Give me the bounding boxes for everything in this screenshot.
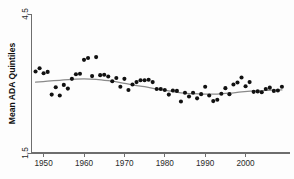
data-point <box>207 94 211 98</box>
data-point <box>260 90 264 94</box>
data-point <box>239 75 243 79</box>
data-point <box>74 72 78 76</box>
data-point <box>276 88 280 92</box>
data-point <box>50 93 54 97</box>
data-point <box>252 90 256 94</box>
data-point <box>151 80 155 84</box>
data-point <box>264 87 268 91</box>
data-point <box>159 87 163 91</box>
data-point <box>78 72 82 76</box>
data-point <box>139 78 143 82</box>
data-point <box>187 94 191 98</box>
data-point <box>126 88 130 92</box>
data-point <box>82 58 86 62</box>
data-point <box>147 78 151 82</box>
data-point <box>114 76 118 80</box>
data-point <box>90 74 94 78</box>
data-point <box>211 99 215 103</box>
data-point <box>231 82 235 86</box>
data-point <box>203 85 207 89</box>
data-point <box>215 98 219 102</box>
data-point <box>102 73 106 77</box>
y-axis-title: Mean ADA Quintiles <box>7 43 17 125</box>
data-point <box>167 93 171 97</box>
data-point <box>171 88 175 92</box>
data-point <box>110 79 114 83</box>
x-tick-label: 1980 <box>156 159 175 168</box>
x-tick-label: 1960 <box>75 159 94 168</box>
x-tick-label: 1970 <box>115 159 134 168</box>
data-point <box>106 75 110 79</box>
data-point <box>272 89 276 93</box>
data-point <box>179 100 183 104</box>
data-point <box>122 77 126 81</box>
data-point <box>175 89 179 93</box>
data-point <box>42 71 46 75</box>
data-point <box>235 81 239 85</box>
scatter-plot: 1.54.5Mean ADA Quintiles1950196019701980… <box>0 0 294 179</box>
data-point <box>58 94 62 98</box>
data-point <box>183 91 187 95</box>
data-point <box>199 92 203 96</box>
x-tick-label: 1950 <box>35 159 54 168</box>
data-point <box>54 85 58 89</box>
data-point <box>191 91 195 95</box>
data-point <box>62 83 66 87</box>
data-point <box>66 87 70 91</box>
data-point <box>227 92 231 96</box>
data-point <box>155 87 159 91</box>
data-point <box>70 77 74 81</box>
data-point <box>248 80 252 84</box>
data-point <box>268 86 272 90</box>
data-point <box>223 86 227 90</box>
data-point <box>219 92 223 96</box>
data-point <box>130 82 134 86</box>
data-point <box>98 73 102 77</box>
data-point <box>280 85 284 89</box>
data-point <box>256 89 260 93</box>
data-point <box>143 78 147 82</box>
x-tick-label: 2000 <box>236 159 255 168</box>
data-point <box>46 70 50 74</box>
data-point <box>118 85 122 89</box>
chart-container: 1.54.5Mean ADA Quintiles1950196019701980… <box>0 0 294 179</box>
data-point <box>244 84 248 88</box>
data-point <box>94 55 98 59</box>
data-point <box>38 66 42 70</box>
data-point <box>195 96 199 100</box>
data-point <box>163 88 167 92</box>
x-tick-label: 1990 <box>196 159 215 168</box>
y-tick-label: 1.5 <box>21 147 30 159</box>
data-point <box>86 56 90 60</box>
data-point <box>134 80 138 84</box>
data-point <box>33 69 37 73</box>
y-tick-label: 4.5 <box>21 8 30 20</box>
